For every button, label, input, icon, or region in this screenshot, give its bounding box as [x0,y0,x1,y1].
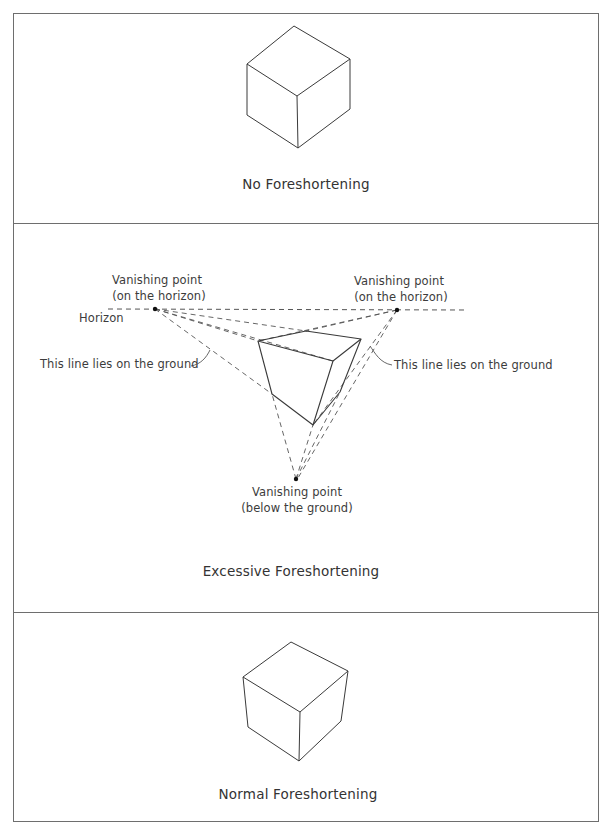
diagram-canvas [0,0,612,833]
vanishing-point-bottom [294,477,298,481]
label-vp-right-line1: Vanishing point [354,274,444,289]
horizon-line [108,309,465,310]
cube-excessive-foreshortening [258,331,361,425]
label-leader-curves [191,346,392,366]
caption-no-foreshortening: No Foreshortening [242,176,370,192]
label-ground-line-right: This line lies on the ground [394,358,553,373]
label-vp-bottom-line2: (below the ground) [241,501,353,516]
vanishing-point-left [153,307,157,311]
vanishing-lines [155,309,397,479]
cube-normal-foreshortening [243,642,348,761]
label-vp-left-line1: Vanishing point [112,273,202,288]
caption-excessive-foreshortening: Excessive Foreshortening [203,563,380,579]
label-vp-right-line2: (on the horizon) [354,290,448,305]
label-ground-line-left: This line lies on the ground [40,357,199,372]
vanishing-point-dots [153,307,399,481]
leader-right [370,346,392,365]
label-vp-left-line2: (on the horizon) [112,289,206,304]
vanishing-point-right [395,308,399,312]
caption-normal-foreshortening: Normal Foreshortening [219,786,378,802]
label-vp-bottom-line1: Vanishing point [252,485,342,500]
cube-no-foreshortening [247,26,350,148]
label-horizon: Horizon [79,311,124,326]
